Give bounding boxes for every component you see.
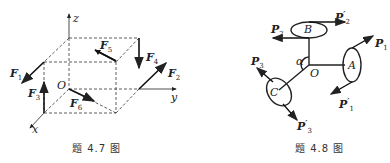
force-label-f6: F6 <box>70 98 82 112</box>
caption-4-8: 题 4.8 图 <box>295 140 344 155</box>
force-label-p1-prime: P′1 <box>339 96 354 113</box>
axis-x-label: x <box>32 124 38 135</box>
angle-alpha-label: α <box>296 56 303 67</box>
axis-z-label: z <box>73 13 79 24</box>
point-c-label: C <box>270 87 278 98</box>
force-label-f5: F5 <box>100 40 112 54</box>
force-label-p2-prime: P′2 <box>335 9 350 26</box>
figure-4-7: z y x O F1 F5 F4 F2 F3 F6 题 4.7 图 <box>0 0 195 163</box>
origin-label: O <box>57 80 66 91</box>
figure-4-8: P′2 P2 P1 P′1 P3 P′3 B A C O α 题 4.8 图 <box>195 0 390 163</box>
force-label-f1: F1 <box>10 68 22 82</box>
point-a-label: A <box>348 60 356 71</box>
point-b-label: B <box>304 24 312 35</box>
force-label-p3-prime: P′3 <box>297 118 312 135</box>
shaft-pulley-diagram <box>195 0 390 163</box>
point-o-label: O <box>310 68 319 79</box>
force-label-f2: F2 <box>168 68 180 82</box>
force-label-f4: F4 <box>146 52 158 66</box>
force-label-p2: P2 <box>271 24 284 38</box>
cube-force-diagram <box>0 0 195 163</box>
caption-4-7: 题 4.7 图 <box>72 140 121 155</box>
force-label-p3: P3 <box>251 56 264 70</box>
force-label-p1: P1 <box>375 38 388 52</box>
axis-y-label: y <box>171 92 177 103</box>
force-label-f3: F3 <box>28 88 40 102</box>
